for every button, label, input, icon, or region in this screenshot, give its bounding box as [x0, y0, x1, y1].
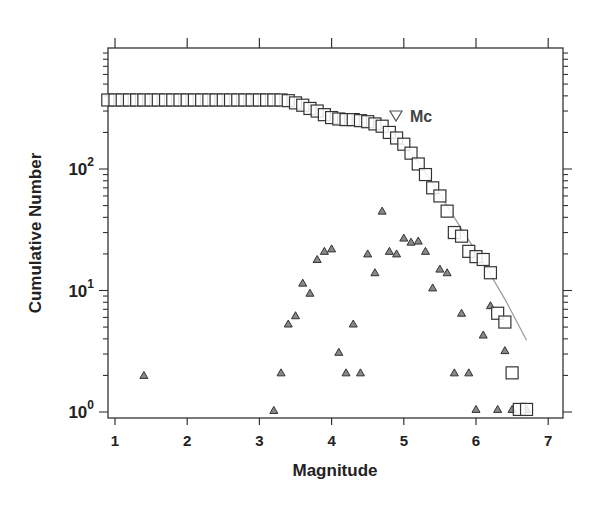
square-marker [456, 230, 468, 242]
square-marker [477, 253, 489, 265]
mc-label: Mc [410, 108, 432, 125]
square-marker [419, 169, 431, 181]
triangle-marker [494, 405, 502, 412]
triangle-marker [429, 284, 437, 291]
x-tick-label: 5 [400, 432, 408, 449]
triangle-marker [450, 369, 458, 376]
x-tick-label: 1 [111, 432, 119, 449]
annotations: Mc [390, 108, 432, 125]
triangle-marker [458, 309, 466, 316]
triangle-marker [436, 265, 444, 272]
x-tick-label: 7 [544, 432, 552, 449]
triangle-marker [313, 255, 321, 262]
y-axis-title: Cumulative Number [26, 152, 45, 313]
triangle-marker [284, 320, 292, 327]
triangle-marker [479, 331, 487, 338]
square-marker [506, 367, 518, 379]
triangle-marker [140, 371, 148, 378]
triangle-marker [292, 312, 300, 319]
triangle-marker [385, 247, 393, 254]
square-marker [441, 205, 453, 217]
y-tick-label: 100 [68, 398, 94, 422]
triangle-marker [501, 347, 509, 354]
triangle-marker [306, 289, 314, 296]
x-tick-label: 2 [183, 432, 191, 449]
triangle-marker [320, 247, 328, 254]
triangle-marker [335, 348, 343, 355]
y-tick-label: 102 [68, 155, 94, 179]
square-marker [405, 147, 417, 159]
x-tick-label: 6 [472, 432, 480, 449]
triangle-marker [328, 245, 336, 252]
triangle-marker [270, 406, 278, 413]
triangle-marker [364, 250, 372, 257]
triangle-marker [414, 237, 422, 244]
non-cumulative-series [140, 207, 531, 413]
triangle-marker [342, 369, 350, 376]
x-tick-label: 3 [255, 432, 263, 449]
triangle-marker [371, 269, 379, 276]
triangle-marker [356, 369, 364, 376]
triangle-marker [299, 279, 307, 286]
x-tick-label: 4 [327, 432, 336, 449]
square-marker [521, 403, 533, 415]
triangle-marker [393, 250, 401, 257]
triangle-marker [400, 234, 408, 241]
square-marker [499, 316, 511, 328]
triangle-marker [472, 405, 480, 412]
triangle-marker [465, 369, 473, 376]
square-marker [434, 190, 446, 202]
triangle-marker [421, 247, 429, 254]
triangle-marker [378, 207, 386, 214]
mc-inverted-triangle-icon [390, 111, 402, 121]
gr-chart: 1234567 100101102 Mc Magnitude Cumulativ… [0, 0, 596, 505]
triangle-marker [349, 320, 357, 327]
square-marker [484, 267, 496, 279]
x-axis-title: Magnitude [293, 461, 378, 480]
y-tick-label: 101 [68, 277, 94, 301]
triangle-marker [277, 369, 285, 376]
